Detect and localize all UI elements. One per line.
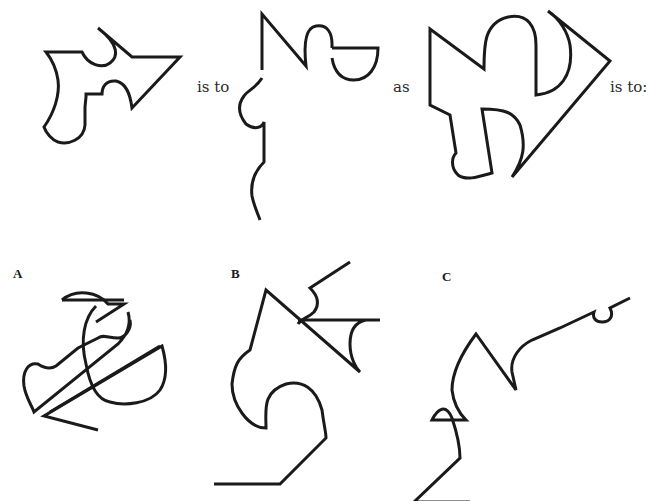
option-a-shape-icon [20, 290, 180, 440]
connector-as: as [393, 80, 410, 95]
stem-figure-3 [420, 5, 620, 185]
connector-is-to-2: is to: [610, 80, 647, 95]
shape-3-icon [420, 5, 620, 185]
option-a-figure[interactable] [20, 290, 180, 440]
stem-figure-1 [40, 25, 190, 150]
analogy-puzzle: is to as is to: A B C [0, 0, 652, 501]
option-c-shape-icon [400, 290, 640, 480]
shape-1-icon [40, 25, 190, 150]
option-c-figure[interactable] [400, 290, 640, 480]
stem-figure-2 [228, 10, 388, 225]
option-c-label: C [442, 270, 451, 283]
option-b-figure[interactable] [210, 260, 390, 490]
option-a-label: A [13, 267, 22, 280]
connector-is-to-1: is to [197, 80, 229, 95]
shape-2-icon [228, 10, 388, 225]
option-b-shape-icon [210, 260, 390, 490]
